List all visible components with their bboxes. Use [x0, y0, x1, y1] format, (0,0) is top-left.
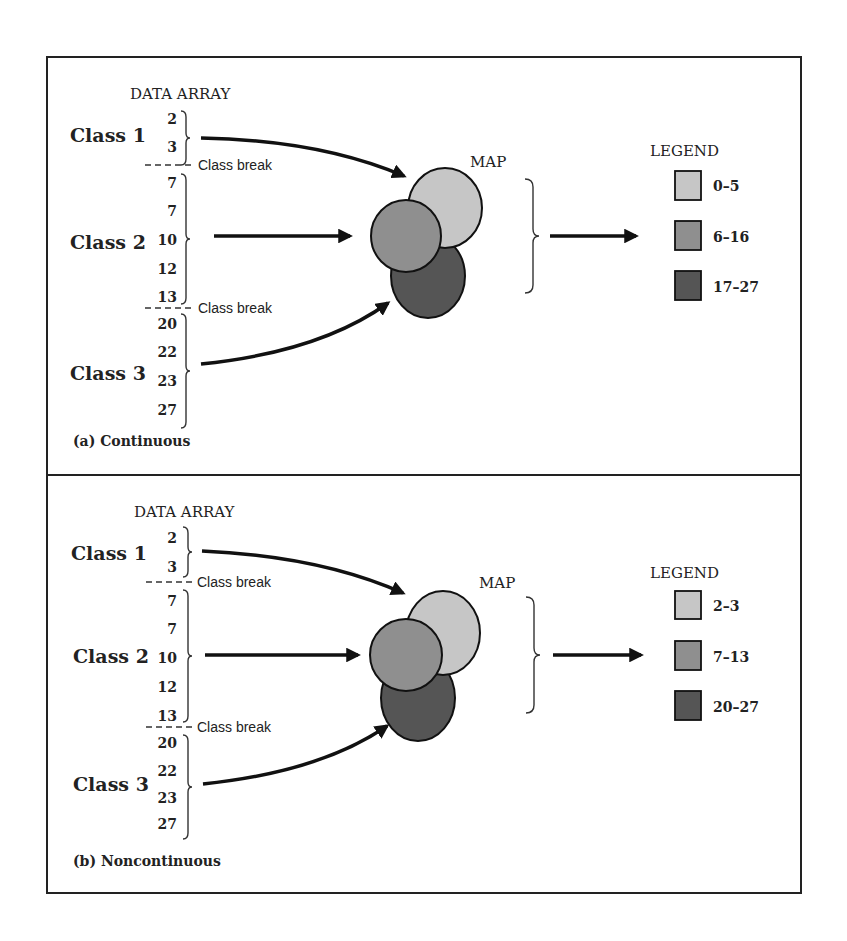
class-2-label: Class 2	[73, 645, 149, 667]
class-3-label: Class 3	[73, 773, 149, 795]
legend-swatch-light	[675, 171, 701, 200]
panel-caption: (b) Noncontinuous	[73, 853, 221, 869]
data-value: 7	[167, 621, 177, 637]
class-1-brace	[181, 111, 190, 165]
map-shapes	[370, 591, 480, 741]
data-value: 7	[167, 203, 177, 219]
class-3-label: Class 3	[70, 362, 146, 384]
legend-swatch-dark	[675, 271, 701, 300]
legend-swatch-dark	[675, 691, 701, 720]
map-title: MAP	[470, 153, 506, 171]
panel-caption: (a) Continuous	[73, 433, 191, 449]
legend-title: LEGEND	[650, 564, 719, 582]
data-value: 3	[167, 139, 177, 155]
map-title: MAP	[479, 574, 515, 592]
legend-range: 2–3	[713, 598, 739, 614]
class-break-label: Class break	[197, 574, 272, 590]
data-value: 23	[158, 373, 177, 389]
data-value: 22	[158, 344, 177, 360]
legend-range: 17–27	[713, 279, 759, 295]
class-break-label: Class break	[197, 719, 272, 735]
map-brace	[526, 597, 540, 713]
map-region-medium	[370, 619, 442, 691]
legend-swatch-medium	[675, 221, 701, 250]
legend-title: LEGEND	[650, 142, 719, 160]
class-1-label: Class 1	[70, 124, 146, 146]
data-value: 27	[158, 402, 177, 418]
map-shapes	[371, 168, 482, 318]
data-value: 20	[158, 316, 178, 332]
data-value: 13	[158, 289, 177, 305]
legend-swatch-light	[675, 591, 701, 619]
data-value: 23	[158, 790, 177, 806]
legend-range: 7–13	[713, 649, 749, 665]
panel-a: DATA ARRAY Class 1 2 3 Class break Class…	[70, 85, 759, 449]
data-value: 10	[158, 650, 178, 666]
class-break-label: Class break	[198, 300, 273, 316]
class-1-brace	[183, 527, 192, 577]
data-value: 12	[158, 261, 177, 277]
legend-swatch-medium	[675, 641, 701, 670]
data-value: 27	[158, 816, 177, 832]
class-3-brace	[181, 314, 190, 428]
diagram-canvas: DATA ARRAY Class 1 2 3 Class break Class…	[0, 0, 847, 941]
data-value: 12	[158, 679, 177, 695]
data-value: 2	[167, 111, 177, 127]
data-array-title: DATA ARRAY	[134, 503, 235, 521]
data-value: 3	[167, 559, 177, 575]
data-value: 13	[158, 708, 177, 724]
class-3-brace	[183, 735, 192, 839]
data-array-title: DATA ARRAY	[130, 85, 231, 103]
class-2-brace	[181, 174, 190, 304]
class-break-label: Class break	[198, 157, 273, 173]
data-value: 7	[167, 593, 177, 609]
class-2-label: Class 2	[70, 231, 146, 253]
data-value: 22	[158, 763, 177, 779]
map-brace	[525, 179, 539, 293]
data-value: 7	[167, 175, 177, 191]
data-value: 20	[158, 735, 178, 751]
data-value: 10	[158, 232, 178, 248]
legend-range: 0–5	[713, 178, 739, 194]
map-region-medium	[371, 200, 441, 272]
class-1-label: Class 1	[71, 542, 147, 564]
legend-range: 6–16	[713, 229, 749, 245]
data-value: 2	[167, 530, 177, 546]
class-2-brace	[183, 590, 192, 722]
panel-b: DATA ARRAY Class 1 2 3 Class break Class…	[71, 503, 759, 869]
legend-range: 20–27	[713, 699, 759, 715]
